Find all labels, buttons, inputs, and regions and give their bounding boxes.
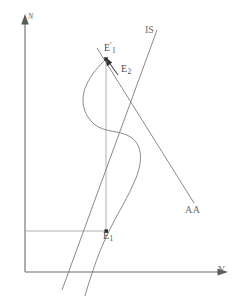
x-axis: [25, 268, 228, 275]
aa-curve-label: AA: [185, 205, 200, 215]
is-curve-label: IS: [145, 25, 154, 35]
point-label-e1: E1: [103, 231, 113, 243]
y-axis-label: N: [28, 13, 33, 21]
s-curve: [83, 59, 141, 296]
point-label-e2-sub: 2: [127, 67, 131, 76]
x-axis-label: Y: [218, 265, 225, 275]
point-label-e2: E2: [121, 64, 131, 76]
is-curve-line: [62, 30, 157, 290]
economics-diagram-figure: N Y IS AA E'1 E2 E1: [0, 0, 238, 296]
point-label-e1-prime: E'1: [104, 42, 116, 55]
diagram-canvas: [0, 0, 238, 296]
point-marker-e1-prime: [104, 57, 108, 61]
point-label-e1-prime-sub: 1: [112, 46, 116, 55]
point-label-e1-sub: 1: [109, 234, 113, 243]
aa-curve-line: [97, 48, 194, 203]
y-axis: [21, 14, 29, 272]
